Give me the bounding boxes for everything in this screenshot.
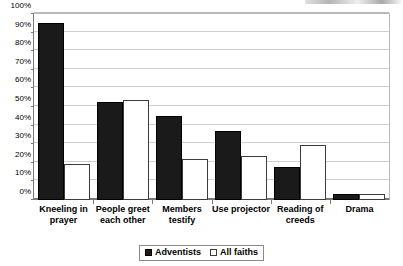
y-tick-label: 90% xyxy=(1,21,31,29)
chart-legend: Adventists All faiths xyxy=(139,245,264,261)
y-tick-label: 60% xyxy=(1,76,31,84)
gridline-100 xyxy=(34,12,389,13)
bar-adventists xyxy=(333,194,359,200)
bar-adventists xyxy=(97,102,123,200)
bar-group xyxy=(38,14,90,200)
scan-artifact xyxy=(305,0,401,4)
x-tick-mark xyxy=(93,200,94,204)
bar-all-faiths xyxy=(300,145,326,200)
bar-adventists xyxy=(215,131,241,200)
bar-all-faiths xyxy=(64,164,90,200)
bars-layer xyxy=(34,14,389,200)
bar-all-faiths xyxy=(359,194,385,200)
y-tick-label: 30% xyxy=(1,132,31,140)
bar-group xyxy=(156,14,208,200)
bar-all-faiths xyxy=(182,159,208,200)
y-tick-label: 0% xyxy=(1,188,31,196)
y-tick-label: 40% xyxy=(1,114,31,122)
bar-adventists xyxy=(38,23,64,200)
legend-label-adventists: Adventists xyxy=(155,247,201,258)
y-tick-label: 50% xyxy=(1,95,31,103)
legend-label-all-faiths: All faiths xyxy=(220,247,258,258)
x-tick-mark xyxy=(330,200,331,204)
legend-item-all-faiths: All faiths xyxy=(210,247,258,258)
y-tick-label: 20% xyxy=(1,151,31,159)
x-tick-mark xyxy=(152,200,153,204)
bar-all-faiths xyxy=(241,156,267,200)
y-tick-label: 10% xyxy=(1,169,31,177)
bar-group xyxy=(274,14,326,200)
bar-adventists xyxy=(274,167,300,200)
bar-group xyxy=(333,14,385,200)
bar-chart-figure: 0%10%20%30%40%50%60%70%80%90%100% Kneeli… xyxy=(0,0,403,266)
x-axis-label: Drama xyxy=(330,204,389,215)
hollow-square-icon xyxy=(210,249,217,256)
y-tick-label: 70% xyxy=(1,58,31,66)
x-axis-label: Members testify xyxy=(152,204,211,226)
x-axis-label: Reading of creeds xyxy=(271,204,330,226)
x-axis-label: Use projector xyxy=(212,204,271,215)
legend-item-adventists: Adventists xyxy=(145,247,201,258)
y-tick-label: 100% xyxy=(1,2,31,10)
x-axis-label: Kneeling in prayer xyxy=(34,204,93,226)
bar-adventists xyxy=(156,116,182,200)
x-axis-labels: Kneeling in prayerPeople greet each othe… xyxy=(34,204,389,238)
x-tick-mark xyxy=(212,200,213,204)
x-tick-mark xyxy=(271,200,272,204)
bar-group xyxy=(97,14,149,200)
bar-all-faiths xyxy=(123,100,149,200)
y-tick-label: 80% xyxy=(1,39,31,47)
bar-group xyxy=(215,14,267,200)
filled-square-icon xyxy=(145,249,152,256)
x-axis-label: People greet each other xyxy=(93,204,152,226)
y-axis: 0%10%20%30%40%50%60%70%80%90%100% xyxy=(0,13,31,200)
